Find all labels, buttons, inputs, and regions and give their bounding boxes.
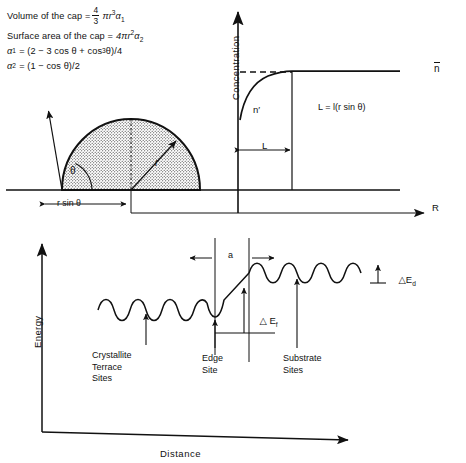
delta-ef-label: △ Ef: [249, 303, 278, 339]
substrate-sites-wells: [249, 263, 361, 283]
energy-axis-label: Energy: [32, 315, 43, 348]
n-bar-text: n̄: [434, 62, 440, 74]
crystallite-terrace-wells: [98, 300, 207, 321]
delta-ef-symbol: △ E: [260, 315, 276, 326]
contact-angle-label: θ: [70, 165, 76, 178]
distance-x-axis: [42, 432, 348, 440]
delta-ed-subscript: d: [412, 280, 416, 287]
capture-length-label: L: [262, 140, 267, 152]
distance-axis-label: Distance: [160, 448, 201, 460]
n-prime-label: n′: [253, 104, 260, 116]
tangent-arrow: [49, 111, 63, 190]
delta-ed-label: △Ed: [388, 262, 416, 298]
concentration-axis-label: Concentration: [230, 36, 241, 100]
edge-site-label: Edge Site: [202, 353, 223, 376]
radius-label: r: [155, 157, 158, 170]
r-sin-theta-label: r sin θ: [57, 198, 81, 209]
capture-length-equation: L = l(r sin θ): [318, 102, 365, 113]
r-axis-label: R: [432, 202, 439, 214]
n-bar-label: n̄: [434, 62, 440, 74]
crystallite-terrace-sites-label: Crystallite Terrace Sites: [92, 350, 132, 385]
energy-landscape-plot: [42, 238, 386, 440]
spacing-label: a: [228, 250, 233, 261]
delta-ed-symbol: △E: [399, 274, 413, 285]
edge-site-well: [207, 273, 249, 317]
delta-ef-subscript: f: [276, 321, 278, 328]
substrate-sites-label: Substrate Sites: [283, 353, 322, 376]
nucleation-figure: Volume of the cap = 4 3 πr3α1 Surface ar…: [0, 0, 466, 463]
